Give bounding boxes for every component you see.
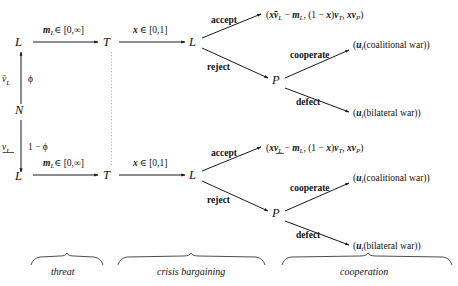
node-top-patron: P: [271, 73, 280, 87]
label-bottom-offer-action: x∈ [0,1]: [132, 158, 167, 168]
top-subgame: T --> mL∈ [0,∞] T L --> x∈ [0,1] L accep…: [33, 10, 430, 120]
label-top-defect: defect: [296, 97, 321, 107]
svg-text:(ui(bilateral war)): (ui(bilateral war)): [353, 108, 421, 120]
nature-high-prob: ϕ: [28, 74, 33, 84]
label-bottom-reject: reject: [207, 195, 231, 205]
node-top-leader2: L: [188, 35, 196, 49]
label-nature-low: vL 1 − ϕ: [2, 142, 48, 155]
label-bottom-accept: accept: [211, 148, 238, 158]
brace-crisis-bargaining: [118, 253, 265, 265]
label-top-offer-action: x∈ [0,1]: [132, 25, 167, 35]
brace-threat: [31, 253, 103, 265]
brace-cooperation: [282, 253, 452, 265]
node-nature-top-leader: L: [14, 35, 22, 49]
nature-high-type-subscript: L: [5, 79, 10, 87]
payoff-bottom-accept: (xvL − mL, (1 − x)vT, xvP): [266, 143, 363, 155]
label-nature-high: v̄L ϕ: [2, 74, 33, 87]
nature-subtree: L N L v̄L ϕ vL 1 − ϕ: [2, 35, 48, 183]
payoff-top-coalitional-war: (ui(coalitional war)): [353, 40, 430, 52]
svg-text:(ui(coalitional war)): (ui(coalitional war)): [353, 40, 430, 52]
node-bottom-target: T: [103, 168, 111, 182]
payoff-top-accept: (xv̄L − mL, (1 − x)vT, xvP): [266, 10, 363, 22]
node-nature: N: [14, 103, 24, 117]
bottom-subgame: mL∈ [0,∞] T x∈ [0,1] L accept reject P c…: [33, 143, 430, 253]
label-bottom-threat-action: mL∈ [0,∞]: [43, 158, 84, 170]
label-top-cooperate: cooperate: [290, 50, 330, 60]
node-top-target: T: [103, 35, 111, 49]
payoff-top-bilateral-war: (ui(bilateral war)): [353, 108, 421, 120]
phase-label-threat: threat: [51, 266, 75, 277]
game-tree-figure: L N L v̄L ϕ vL 1 − ϕ: [0, 0, 458, 286]
label-top-threat-action: mL∈ [0,∞]: [43, 25, 84, 37]
svg-text:(ui(bilateral war)): (ui(bilateral war)): [353, 241, 421, 253]
svg-text:v̄L: v̄L: [2, 74, 10, 87]
phase-label-cooperation: cooperation: [340, 266, 388, 277]
phase-label-crisis-bargaining: crisis bargaining: [157, 266, 225, 277]
label-bottom-defect: defect: [296, 230, 321, 240]
label-bottom-cooperate: cooperate: [290, 183, 330, 193]
svg-text:(ui(coalitional war)): (ui(coalitional war)): [353, 173, 430, 185]
nature-low-type-subscript: L: [5, 147, 10, 155]
label-top-reject: reject: [207, 62, 231, 72]
svg-text:(xv̄L − mL, (1 − x)vT, xvP): (xv̄L − mL, (1 − x)vT, xvP): [266, 10, 363, 22]
game-tree-svg: L N L v̄L ϕ vL 1 − ϕ: [0, 0, 458, 286]
phase-braces: threat crisis bargaining cooperation: [31, 253, 452, 277]
label-top-accept: accept: [211, 15, 238, 25]
payoff-bottom-coalitional-war: (ui(coalitional war)): [353, 173, 430, 185]
node-bottom-leader2: L: [188, 168, 196, 182]
payoff-bottom-bilateral-war: (ui(bilateral war)): [353, 241, 421, 253]
node-bottom-patron: P: [271, 206, 280, 220]
nature-low-prob: 1 − ϕ: [28, 142, 48, 152]
